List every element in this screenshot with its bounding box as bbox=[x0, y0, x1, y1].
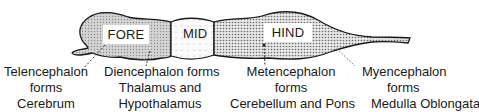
caption-line: forms bbox=[352, 80, 478, 96]
mid-label: MID bbox=[183, 26, 207, 42]
caption-line: Hypothalamus bbox=[104, 96, 216, 112]
hind-label: HIND bbox=[272, 25, 305, 40]
caption-metencephalon: Metencephalon forms Cerebellum and Pons bbox=[230, 64, 352, 112]
hind-label-box: HIND bbox=[264, 23, 312, 42]
caption-line: Telencephalon bbox=[4, 64, 88, 80]
caption-line: Medulla Oblongata bbox=[352, 96, 478, 112]
caption-line: forms bbox=[230, 80, 352, 96]
caption-diencephalon: Diencephalon forms Thalamus and Hypothal… bbox=[104, 64, 216, 112]
caption-line: Diencephalon forms bbox=[104, 64, 216, 80]
caption-line: Thalamus and bbox=[104, 80, 216, 96]
hindbrain-region bbox=[214, 12, 410, 59]
fore-label: FORE bbox=[108, 27, 145, 42]
caption-telencephalon: Telencephalon forms Cerebrum bbox=[4, 64, 88, 112]
caption-line: Myencephalon bbox=[352, 64, 478, 80]
pointer-dot-metencephalon bbox=[263, 44, 266, 47]
caption-line: Cerebrum bbox=[4, 96, 88, 112]
caption-line: Metencephalon bbox=[230, 64, 352, 80]
pointer-myencephalon bbox=[334, 46, 355, 66]
caption-line: forms bbox=[4, 80, 88, 96]
caption-myencephalon: Myencephalon forms Medulla Oblongata bbox=[352, 64, 478, 112]
caption-line: Cerebellum and Pons bbox=[230, 96, 352, 112]
fore-label-box: FORE bbox=[103, 25, 149, 44]
